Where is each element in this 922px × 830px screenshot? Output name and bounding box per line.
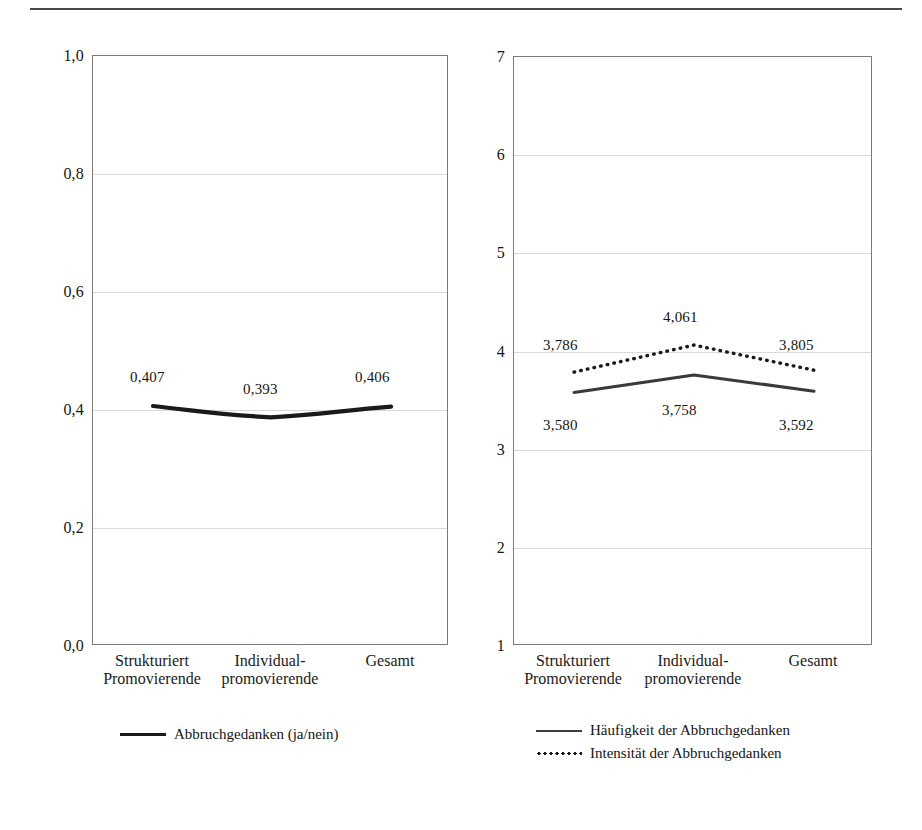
right-ytick-label-0: 7 [471, 49, 505, 65]
right-ytick-label-4: 3 [471, 442, 505, 458]
figure-page: 1,0 0,8 0,6 0,4 0,2 0,0 0,407 0,393 0,40… [0, 0, 922, 830]
right-xcat-1-line2: promovierende [633, 670, 753, 688]
left-ytick-label-5: 0,0 [34, 638, 84, 654]
left-xcat-0-line1: Strukturiert [92, 652, 212, 670]
left-xcat-1-line2: promovierende [210, 670, 330, 688]
haeufigkeit-line [574, 375, 814, 393]
left-chart: 1,0 0,8 0,6 0,4 0,2 0,0 0,407 0,393 0,40… [0, 0, 461, 830]
solid-line-swatch-icon [536, 730, 582, 732]
left-ytick-label-1: 0,8 [34, 166, 84, 182]
right-intensitaet-label-1: 4,061 [663, 310, 698, 325]
right-xcat-1: Individual- promovierende [633, 652, 753, 688]
left-ytick-label-3: 0,4 [34, 402, 84, 418]
right-haeufigkeit-label-2: 3,592 [779, 418, 814, 433]
left-legend-label-0: Abbruchgedanken (ja/nein) [174, 726, 339, 743]
right-chart: 7 6 5 4 3 2 1 3,786 4,061 3,805 3,580 3,… [461, 0, 922, 830]
right-legend-item-1: Intensität der Abbruchgedanken [536, 745, 790, 762]
right-ytick-label-2: 5 [471, 245, 505, 261]
solid-line-swatch-icon [120, 733, 166, 736]
right-xcat-2-line1: Gesamt [753, 652, 873, 670]
left-data-label-1: 0,393 [243, 382, 278, 397]
right-intensitaet-label-2: 3,805 [779, 338, 814, 353]
left-xcat-0: Strukturiert Promovierende [92, 652, 212, 688]
right-legend-item-0: Häufigkeit der Abbruchgedanken [536, 722, 790, 739]
left-ytick-label-2: 0,6 [34, 284, 84, 300]
left-legend-item-0: Abbruchgedanken (ja/nein) [120, 726, 339, 743]
left-series-line [93, 56, 449, 646]
right-haeufigkeit-label-0: 3,580 [543, 418, 578, 433]
right-ytick-label-3: 4 [471, 344, 505, 360]
right-haeufigkeit-label-1: 3,758 [662, 403, 697, 418]
right-xcat-0-line2: Promovierende [513, 670, 633, 688]
left-data-label-2: 0,406 [355, 370, 390, 385]
right-ytick-label-1: 6 [471, 147, 505, 163]
right-ytick-label-6: 1 [471, 638, 505, 654]
right-xcat-1-line1: Individual- [633, 652, 753, 670]
left-xcat-2: Gesamt [330, 652, 450, 670]
right-legend-label-1: Intensität der Abbruchgedanken [590, 745, 782, 762]
left-xcat-2-line1: Gesamt [330, 652, 450, 670]
right-xcat-2: Gesamt [753, 652, 873, 670]
dotted-line-swatch-icon [536, 752, 582, 755]
left-ytick-label-4: 0,2 [34, 520, 84, 536]
left-xcat-0-line2: Promovierende [92, 670, 212, 688]
left-xcat-1-line1: Individual- [210, 652, 330, 670]
left-plot-area [92, 55, 448, 645]
right-xcat-0-line1: Strukturiert [513, 652, 633, 670]
right-xcat-0: Strukturiert Promovierende [513, 652, 633, 688]
left-data-label-0: 0,407 [130, 370, 165, 385]
right-legend: Häufigkeit der Abbruchgedanken Intensitä… [536, 722, 790, 768]
right-intensitaet-label-0: 3,786 [543, 338, 578, 353]
left-ytick-label-0: 1,0 [34, 48, 84, 64]
right-ytick-label-5: 2 [471, 540, 505, 556]
intensitaet-line [574, 345, 814, 372]
right-legend-label-0: Häufigkeit der Abbruchgedanken [590, 722, 790, 739]
left-xcat-1: Individual- promovierende [210, 652, 330, 688]
left-legend: Abbruchgedanken (ja/nein) [120, 726, 339, 749]
